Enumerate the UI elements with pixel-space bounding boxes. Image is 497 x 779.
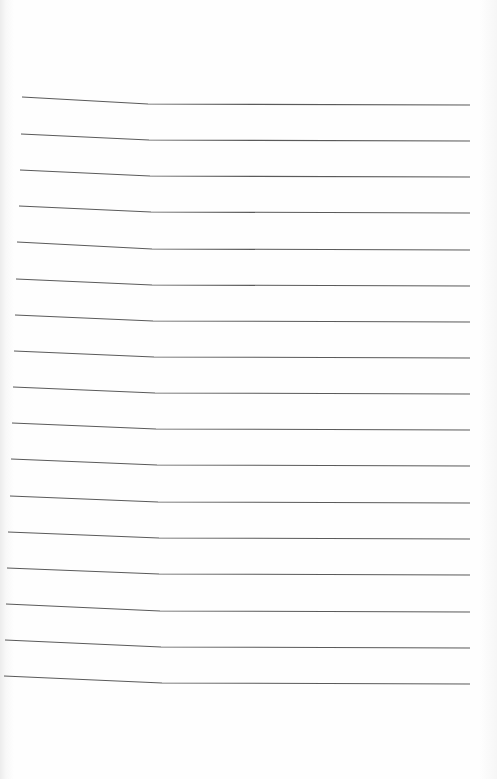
ruled-line (22, 97, 470, 105)
ruled-line (19, 206, 470, 213)
ruled-line (11, 459, 470, 466)
ruled-line (6, 604, 470, 612)
ruled-line (14, 351, 470, 358)
ruled-line (20, 170, 470, 177)
ruled-lines (0, 0, 497, 779)
ruled-line (17, 242, 470, 250)
ruled-line (21, 134, 470, 141)
ruled-line (13, 387, 470, 394)
ruled-line (16, 279, 470, 286)
ruled-line (8, 532, 470, 539)
ruled-line (7, 568, 470, 575)
ruled-line (4, 676, 470, 684)
ruled-line (5, 640, 470, 648)
lined-paper-page (0, 0, 497, 779)
ruled-line (10, 496, 470, 503)
ruled-line (15, 315, 470, 322)
ruled-line (12, 423, 470, 430)
